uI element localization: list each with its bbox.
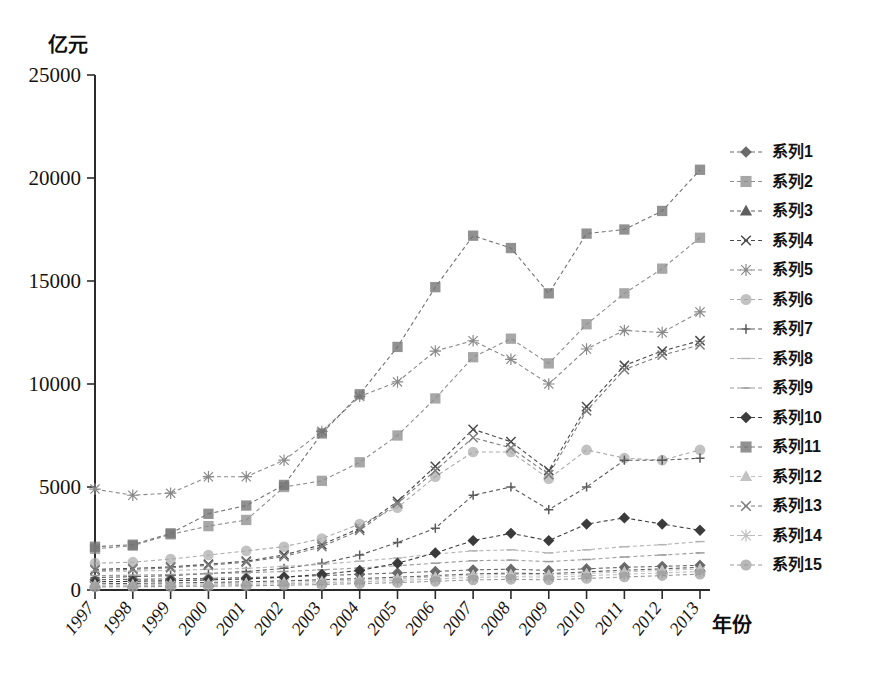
square-marker — [620, 289, 629, 298]
legend-item-4[interactable]: 系列4 — [724, 229, 864, 254]
y-tick-label: 0 — [71, 578, 82, 602]
circle-marker — [582, 574, 591, 583]
line-chart: 0500010000150002000025000199719981999200… — [0, 0, 876, 680]
y-tick-label: 20000 — [29, 166, 82, 190]
square-marker — [582, 229, 591, 238]
circle-marker — [620, 572, 629, 581]
legend-item-8[interactable]: 系列8 — [724, 347, 864, 372]
legend-label: 系列4 — [772, 231, 813, 249]
asterisk-marker — [392, 376, 404, 388]
square-marker — [582, 320, 591, 329]
y-tick-label: 10000 — [29, 372, 82, 396]
series-6 — [90, 445, 704, 568]
legend-label: 系列5 — [772, 260, 813, 278]
legend-label: 系列9 — [772, 378, 813, 396]
legend-label: 系列1 — [772, 142, 813, 160]
circle-marker — [279, 542, 288, 551]
circle-marker — [469, 447, 478, 456]
square-marker — [696, 165, 705, 174]
square-marker — [166, 529, 175, 538]
legend-item-10[interactable]: 系列10 — [724, 406, 864, 431]
asterisk-marker — [203, 471, 215, 483]
legend-item-1[interactable]: 系列1 — [724, 140, 864, 165]
legend-item-13[interactable]: 系列13 — [724, 494, 864, 519]
circle-marker — [658, 571, 667, 580]
circle-marker — [544, 575, 553, 584]
square-marker — [204, 509, 213, 518]
legend-label: 系列10 — [772, 408, 822, 426]
asterisk-marker — [505, 354, 517, 366]
square-marker — [431, 283, 440, 292]
legend-label: 系列2 — [772, 172, 813, 190]
asterisk-marker — [581, 343, 593, 355]
legend-item-9[interactable]: 系列9 — [724, 376, 864, 401]
legend-item-14[interactable]: 系列14 — [724, 524, 864, 549]
x-tick-label: 2013 — [665, 598, 703, 639]
y-tick-label: 25000 — [29, 63, 82, 87]
legend-label: 系列12 — [772, 467, 822, 485]
legend-item-2[interactable]: 系列2 — [724, 170, 864, 195]
x-tick-label: 2010 — [552, 598, 590, 639]
circle-marker — [128, 582, 137, 591]
legend-label: 系列11 — [772, 437, 821, 455]
square-marker — [317, 476, 326, 485]
diamond-marker — [695, 526, 704, 535]
series-5 — [89, 306, 706, 501]
asterisk-marker — [165, 487, 177, 499]
legend-item-12[interactable]: 系列12 — [724, 465, 864, 490]
legend-label: 系列8 — [772, 349, 813, 367]
square-marker — [741, 177, 751, 187]
diamond-marker — [582, 519, 591, 528]
series-line — [95, 341, 700, 570]
square-marker — [544, 359, 553, 368]
legend[interactable]: 系列1系列2系列3系列4系列5系列6系列7系列8系列9系列10系列11系列12系… — [724, 140, 864, 578]
series-11 — [91, 165, 705, 551]
series-line — [95, 170, 700, 547]
circle-marker — [242, 581, 251, 590]
square-marker — [393, 431, 402, 440]
circle-marker — [166, 555, 175, 564]
x-marker — [469, 425, 478, 434]
x-tick-label: 2009 — [514, 598, 552, 639]
diamond-marker — [620, 513, 629, 522]
legend-label: 系列7 — [772, 319, 813, 337]
x-marker — [279, 552, 288, 561]
legend-item-7[interactable]: 系列7 — [724, 317, 864, 342]
legend-label: 系列3 — [772, 201, 813, 219]
x-tick-label: 2001 — [211, 598, 249, 639]
square-marker — [741, 442, 751, 452]
circle-marker — [204, 582, 213, 591]
diamond-marker — [431, 548, 440, 557]
square-marker — [355, 390, 364, 399]
series-line — [95, 312, 700, 495]
legend-label: 系列6 — [772, 290, 813, 308]
circle-marker — [695, 445, 704, 454]
axis-lines — [95, 75, 710, 590]
circle-marker — [741, 295, 751, 305]
y-axis-unit-label: 亿元 — [48, 33, 88, 56]
circle-marker — [204, 550, 213, 559]
x-tick-label: 2006 — [401, 598, 439, 639]
asterisk-marker — [127, 489, 139, 501]
x-tick-label: 1998 — [98, 598, 136, 639]
series-group — [89, 165, 706, 591]
plus-marker — [695, 454, 704, 463]
x-tick-label: 2000 — [174, 598, 212, 639]
legend-label: 系列13 — [772, 496, 822, 514]
axes-group: 0500010000150002000025000199719981999200… — [29, 63, 711, 639]
plus-marker — [393, 538, 402, 547]
circle-marker — [242, 546, 251, 555]
legend-item-6[interactable]: 系列6 — [724, 288, 864, 313]
legend-item-11[interactable]: 系列11 — [724, 435, 864, 460]
circle-marker — [166, 582, 175, 591]
square-marker — [507, 244, 516, 253]
legend-item-15[interactable]: 系列15 — [724, 553, 864, 578]
legend-item-5[interactable]: 系列5 — [724, 258, 864, 283]
legend-item-3[interactable]: 系列3 — [724, 199, 864, 224]
asterisk-marker — [467, 335, 479, 347]
square-marker — [317, 429, 326, 438]
x-tick-label: 2003 — [287, 598, 325, 639]
asterisk-marker — [619, 325, 631, 337]
x-tick-label: 2012 — [627, 598, 665, 639]
square-marker — [469, 353, 478, 362]
